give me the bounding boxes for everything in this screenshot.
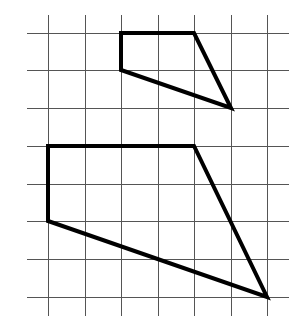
figures [48, 33, 267, 297]
diagram-canvas [0, 0, 308, 332]
square-grid [27, 15, 289, 316]
grid-diagram [0, 0, 308, 332]
